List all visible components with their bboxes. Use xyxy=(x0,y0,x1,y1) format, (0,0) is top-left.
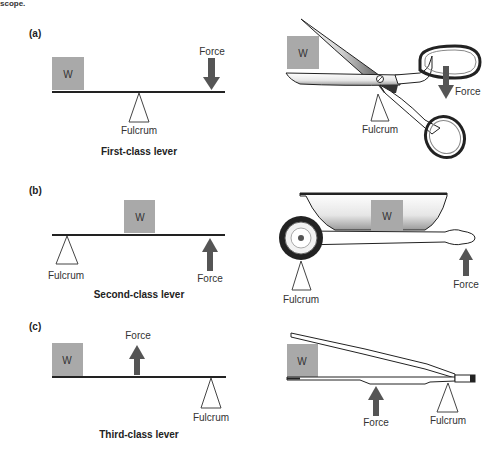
panel-a: (a) W Fulcrum Force First-class lever W xyxy=(29,19,481,165)
wheelbarrow-handle xyxy=(300,230,475,245)
weight-label: W xyxy=(297,356,307,367)
first-class-lever-schematic: W Fulcrum Force First-class lever xyxy=(52,46,225,157)
weight-label: W xyxy=(63,69,73,80)
fulcrum-triangle-icon xyxy=(201,378,221,408)
lever-caption: First-class lever xyxy=(101,146,177,157)
panel-c-label: (c) xyxy=(29,321,41,332)
fulcrum-triangle-icon xyxy=(371,94,389,121)
force-label: Force xyxy=(453,279,479,290)
fulcrum-triangle-icon xyxy=(437,383,458,412)
lever-caption: Third-class lever xyxy=(99,429,179,440)
header-fragment: scope. xyxy=(0,0,25,8)
panel-c: (c) W Fulcrum Force Third-class lever W xyxy=(29,321,475,440)
tweezers-illustration: W Fulcrum Force xyxy=(287,333,475,428)
weight-label: W xyxy=(298,48,308,59)
fulcrum-triangle-icon xyxy=(129,93,149,122)
force-arrow-up-icon xyxy=(202,238,218,271)
force-arrow-up-icon xyxy=(368,386,384,416)
fulcrum-label: Fulcrum xyxy=(430,415,466,426)
lever-caption: Second-class lever xyxy=(94,289,185,300)
force-arrow-down-icon xyxy=(203,58,220,90)
force-label: Force xyxy=(125,330,151,341)
fulcrum-label: Fulcrum xyxy=(283,294,319,305)
force-arrow-up-icon xyxy=(129,345,145,375)
tweezers-bottom-arm xyxy=(287,377,455,384)
force-label: Force xyxy=(199,46,225,57)
panel-a-label: (a) xyxy=(29,28,41,39)
weight-label: W xyxy=(135,212,145,223)
lever-diagram: scope. (a) W Fulcrum Force First-class l… xyxy=(0,0,503,454)
fulcrum-label: Fulcrum xyxy=(362,124,398,135)
fulcrum-label: Fulcrum xyxy=(193,412,229,423)
fulcrum-triangle-icon xyxy=(56,236,78,264)
fulcrum-label: Fulcrum xyxy=(48,270,84,281)
force-arrow-down-icon xyxy=(438,66,454,99)
fulcrum-label: Fulcrum xyxy=(121,125,157,136)
weight-label: W xyxy=(382,211,392,222)
force-arrow-up-icon xyxy=(459,248,473,276)
force-label: Force xyxy=(197,273,223,284)
second-class-lever-schematic: W Fulcrum Force Second-class lever xyxy=(48,200,225,300)
weight-label: W xyxy=(62,355,72,366)
scissors-illustration: W Fulcrum Force xyxy=(286,19,481,165)
panel-b-label: (b) xyxy=(29,185,42,196)
fulcrum-triangle-icon xyxy=(292,261,311,290)
panel-b: (b) W Fulcrum Force Second-class lever W xyxy=(29,185,479,305)
third-class-lever-schematic: W Fulcrum Force Third-class lever xyxy=(52,330,229,440)
force-label: Force xyxy=(363,417,389,428)
wheelbarrow-illustration: W Fulcrum Force xyxy=(279,193,479,305)
force-label: Force xyxy=(455,86,481,97)
